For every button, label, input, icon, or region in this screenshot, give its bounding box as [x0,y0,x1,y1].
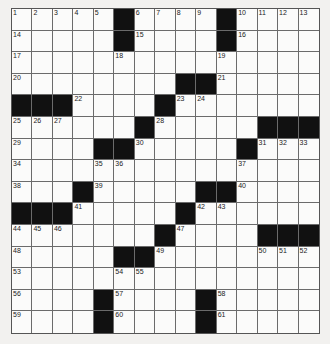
grid-cell[interactable] [217,117,237,139]
grid-cell[interactable] [135,311,155,333]
grid-cell[interactable] [32,52,52,74]
grid-cell[interactable]: 21 [217,74,237,96]
grid-cell[interactable] [53,139,73,161]
grid-cell[interactable] [299,182,319,204]
grid-cell[interactable]: 32 [278,139,298,161]
grid-cell[interactable] [217,268,237,290]
grid-cell[interactable] [135,95,155,117]
grid-cell[interactable]: 55 [135,268,155,290]
grid-cell[interactable] [278,31,298,53]
grid-cell[interactable] [155,52,175,74]
grid-cell[interactable] [155,31,175,53]
grid-cell[interactable] [196,225,216,247]
grid-cell[interactable]: 7 [155,9,175,31]
grid-cell[interactable]: 50 [258,247,278,269]
grid-cell[interactable]: 16 [237,31,257,53]
grid-cell[interactable] [135,160,155,182]
grid-cell[interactable] [155,182,175,204]
grid-cell[interactable]: 41 [73,203,93,225]
grid-cell[interactable] [299,95,319,117]
grid-cell[interactable] [73,139,93,161]
grid-cell[interactable] [176,182,196,204]
grid-cell[interactable] [73,225,93,247]
grid-cell[interactable] [196,52,216,74]
grid-cell[interactable] [299,203,319,225]
grid-cell[interactable]: 11 [258,9,278,31]
grid-cell[interactable]: 44 [12,225,32,247]
grid-cell[interactable]: 56 [12,290,32,312]
grid-cell[interactable] [278,182,298,204]
grid-cell[interactable]: 27 [53,117,73,139]
grid-cell[interactable] [73,311,93,333]
grid-cell[interactable]: 40 [237,182,257,204]
grid-cell[interactable] [258,31,278,53]
grid-cell[interactable] [155,203,175,225]
grid-cell[interactable] [94,31,114,53]
grid-cell[interactable] [73,31,93,53]
grid-cell[interactable] [94,203,114,225]
grid-cell[interactable]: 53 [12,268,32,290]
grid-cell[interactable] [258,52,278,74]
grid-cell[interactable] [299,268,319,290]
grid-cell[interactable]: 3 [53,9,73,31]
grid-cell[interactable] [155,74,175,96]
grid-cell[interactable]: 34 [12,160,32,182]
grid-cell[interactable]: 37 [237,160,257,182]
grid-cell[interactable] [258,203,278,225]
grid-cell[interactable]: 39 [94,182,114,204]
grid-cell[interactable] [32,290,52,312]
grid-cell[interactable]: 17 [12,52,32,74]
grid-cell[interactable] [94,95,114,117]
grid-cell[interactable]: 22 [73,95,93,117]
grid-cell[interactable]: 30 [135,139,155,161]
grid-cell[interactable] [176,160,196,182]
grid-cell[interactable]: 51 [278,247,298,269]
grid-cell[interactable] [176,139,196,161]
grid-cell[interactable] [114,117,134,139]
grid-cell[interactable] [278,74,298,96]
grid-cell[interactable] [258,311,278,333]
grid-cell[interactable] [73,290,93,312]
grid-cell[interactable] [217,139,237,161]
grid-cell[interactable] [73,74,93,96]
grid-cell[interactable]: 4 [73,9,93,31]
grid-cell[interactable] [237,311,257,333]
grid-cell[interactable]: 58 [217,290,237,312]
grid-cell[interactable] [155,268,175,290]
grid-cell[interactable] [176,117,196,139]
grid-cell[interactable]: 20 [12,74,32,96]
grid-cell[interactable] [32,268,52,290]
grid-cell[interactable] [176,290,196,312]
grid-cell[interactable] [299,160,319,182]
grid-cell[interactable] [114,74,134,96]
grid-cell[interactable]: 24 [196,95,216,117]
grid-cell[interactable] [135,290,155,312]
grid-cell[interactable]: 43 [217,203,237,225]
grid-cell[interactable] [32,247,52,269]
grid-cell[interactable] [217,247,237,269]
grid-cell[interactable] [258,268,278,290]
grid-cell[interactable] [299,31,319,53]
grid-cell[interactable] [196,160,216,182]
grid-cell[interactable]: 54 [114,268,134,290]
grid-cell[interactable] [94,247,114,269]
grid-cell[interactable] [32,31,52,53]
grid-cell[interactable]: 61 [217,311,237,333]
grid-cell[interactable]: 14 [12,31,32,53]
grid-cell[interactable]: 18 [114,52,134,74]
grid-cell[interactable] [53,160,73,182]
grid-cell[interactable] [135,74,155,96]
grid-cell[interactable] [155,139,175,161]
grid-cell[interactable] [73,117,93,139]
grid-cell[interactable] [53,74,73,96]
grid-cell[interactable] [73,247,93,269]
grid-cell[interactable] [176,268,196,290]
grid-cell[interactable] [278,311,298,333]
grid-cell[interactable] [155,290,175,312]
grid-cell[interactable] [258,160,278,182]
grid-cell[interactable] [135,182,155,204]
grid-cell[interactable] [196,268,216,290]
grid-cell[interactable] [237,203,257,225]
grid-cell[interactable] [258,74,278,96]
grid-cell[interactable] [53,52,73,74]
